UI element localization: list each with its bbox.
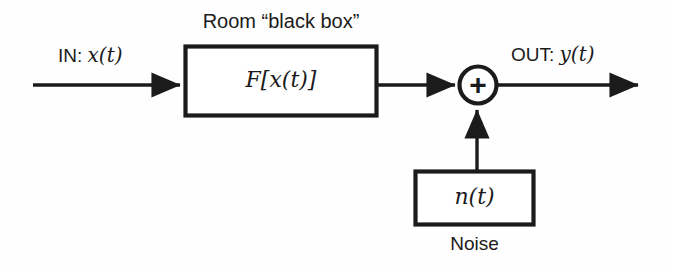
noise-block-label: n(t) [414, 186, 535, 208]
noise-caption: Noise [414, 234, 535, 253]
input-signal-expression: x(t) [88, 43, 123, 67]
black-box-title: Room “black box” [184, 11, 378, 31]
diagram-canvas [0, 0, 673, 272]
plus-icon: + [458, 65, 498, 105]
output-label: OUT: y(t) [511, 44, 595, 64]
input-label-prefix: IN: [58, 45, 82, 66]
output-signal-expression: y(t) [560, 42, 595, 66]
input-label: IN: x(t) [58, 45, 122, 65]
output-label-prefix: OUT: [511, 44, 554, 65]
system-block-label: F[x(t)] [184, 69, 378, 91]
block-diagram: Room “black box” IN: x(t) OUT: y(t) F[x(… [0, 0, 673, 272]
